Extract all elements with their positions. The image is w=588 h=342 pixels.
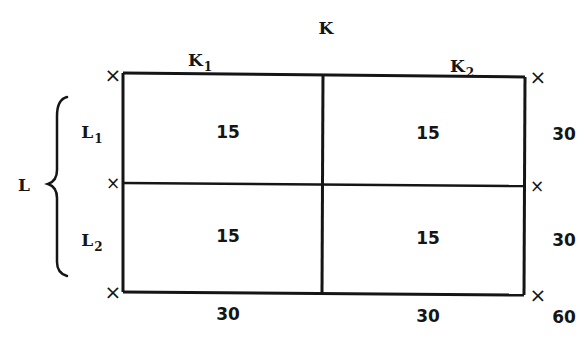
box-right-edge xyxy=(524,77,525,295)
cross-marker-icon: × xyxy=(530,285,547,305)
cross-marker-icon: × xyxy=(530,178,544,195)
row-group-brace xyxy=(48,97,67,276)
row-total-l1: 30 xyxy=(552,126,576,143)
grid-lines xyxy=(0,0,588,342)
row-label-l1: L1 xyxy=(81,124,102,141)
column-label-k2: K2 xyxy=(450,58,474,75)
cell-l2-k2: 15 xyxy=(416,230,440,247)
grand-total: 60 xyxy=(552,309,576,326)
column-total-k2: 30 xyxy=(416,308,440,325)
column-group-label: K xyxy=(319,20,334,37)
column-total-k1: 30 xyxy=(216,306,240,323)
column-label-k1: K1 xyxy=(188,52,212,69)
cell-l1-k2: 15 xyxy=(416,125,440,142)
cross-marker-icon: × xyxy=(105,282,122,302)
column-divider xyxy=(322,74,323,293)
cross-marker-icon: × xyxy=(105,65,122,85)
contingency-diagram: K K1 K2 L L1 L2 15 15 15 15 30 30 30 30 … xyxy=(0,0,588,342)
cross-marker-icon: × xyxy=(106,175,120,192)
cross-marker-icon: × xyxy=(530,67,547,87)
row-total-l2: 30 xyxy=(552,232,576,249)
row-label-l2: L2 xyxy=(81,232,102,249)
cell-l2-k1: 15 xyxy=(216,228,240,245)
cell-l1-k1: 15 xyxy=(216,124,240,141)
row-group-label: L xyxy=(18,177,30,194)
